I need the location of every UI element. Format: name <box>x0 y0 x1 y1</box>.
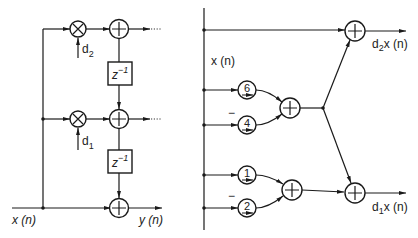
output-label: y (n) <box>138 213 163 227</box>
input-label: x (n) <box>11 213 36 227</box>
delay-box-2: z−1 <box>108 150 132 173</box>
multiplier-d1 <box>70 111 86 127</box>
junction-dot <box>41 206 45 210</box>
adder-row2 <box>110 110 129 129</box>
coef-d1-label: d1 <box>82 134 94 151</box>
adder-upper <box>280 98 300 118</box>
right-diagram: x (n) 6 − 4 <box>202 8 408 230</box>
minus-sign: − <box>228 189 235 203</box>
output-label-d1x: d1x (n) <box>372 200 408 216</box>
minus-sign: − <box>228 106 235 120</box>
constant-1: 1 <box>238 166 256 184</box>
adder-row1 <box>110 20 129 39</box>
constant-6: 6 <box>238 81 256 99</box>
input-label: x (n) <box>211 54 235 68</box>
adder-output <box>110 199 129 218</box>
adder-out-top <box>345 21 365 41</box>
constant-2: 2 <box>238 199 256 217</box>
svg-text:6: 6 <box>244 82 250 94</box>
diag-down-line <box>323 108 351 183</box>
svg-text:2: 2 <box>244 200 250 212</box>
multiplier-d2 <box>70 21 86 37</box>
sum-input-line <box>256 175 283 184</box>
adder-lower <box>282 180 302 200</box>
adder-out-line <box>302 190 344 192</box>
diag-up-line <box>323 40 350 108</box>
sum-input-line <box>256 90 282 102</box>
delay-box-1: z−1 <box>108 62 132 85</box>
output-label-d2x: d2x (n) <box>372 37 408 53</box>
svg-text:4: 4 <box>244 117 250 129</box>
diagram-canvas: d2 z−1 d1 <box>0 0 418 238</box>
svg-text:1: 1 <box>244 167 250 179</box>
sum-input-line <box>256 196 283 208</box>
adder-out-bottom <box>345 183 365 203</box>
coef-d2-label: d2 <box>82 42 94 59</box>
left-diagram: d2 z−1 d1 <box>11 20 163 228</box>
constant-4: 4 <box>238 116 256 134</box>
sum-input-line <box>256 114 282 125</box>
